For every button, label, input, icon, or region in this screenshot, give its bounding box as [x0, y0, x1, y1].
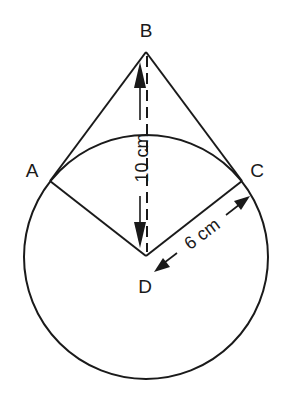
dimension-6cm-label: 6 cm: [180, 214, 223, 253]
point-label-d: D: [138, 276, 152, 297]
point-label-c: C: [250, 160, 264, 181]
point-label-b: B: [140, 20, 153, 41]
line-da: [50, 181, 146, 256]
kite-circle-diagram: 10 cm 6 cm B A C D: [0, 0, 284, 395]
arrow-down-icon: [134, 222, 146, 248]
point-label-a: A: [26, 160, 39, 181]
dimension-10cm-label: 10 cm: [132, 133, 152, 182]
dimension-6cm: 6 cm: [154, 196, 250, 272]
line-bc: [146, 52, 242, 181]
dimension-10cm: 10 cm: [132, 62, 152, 248]
